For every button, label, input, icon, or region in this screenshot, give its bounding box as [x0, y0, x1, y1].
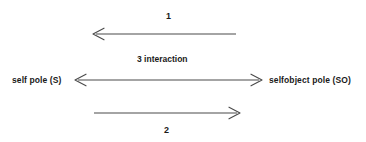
self-pole-label: self pole (S)	[12, 76, 61, 85]
interaction-label: 3 interaction	[137, 55, 188, 64]
selfobject-pole-label: selfobject pole (SO)	[269, 76, 351, 85]
arrow-2-label: 2	[164, 126, 169, 135]
arrow-3-graphic	[75, 74, 262, 86]
arrow-1-label: 1	[166, 12, 171, 21]
arrow-2-head-right	[229, 107, 240, 119]
diagram-canvas: 1 3 interaction self pole (S) selfobject…	[0, 0, 366, 142]
arrow-1-graphic	[93, 28, 236, 40]
arrow-2-graphic	[94, 107, 240, 119]
arrow-3-head-right	[251, 74, 262, 86]
arrow-1-head-left	[93, 28, 104, 40]
arrow-3-head-left	[75, 74, 86, 86]
arrow-graphics-layer	[0, 0, 366, 142]
